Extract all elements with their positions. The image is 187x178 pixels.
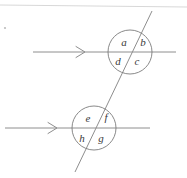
angle-label-b: b: [140, 36, 146, 48]
geometry-figure-canvas: a b c d e f g h: [0, 0, 187, 178]
bullet-mark: [4, 27, 6, 29]
angle-label-a: a: [121, 36, 127, 48]
top-rule-line: [0, 5, 187, 7]
angle-label-d: d: [115, 55, 121, 67]
angle-label-f: f: [104, 111, 109, 123]
angle-label-e: e: [86, 112, 91, 124]
angle-label-g: g: [98, 132, 104, 144]
angle-label-h: h: [79, 132, 85, 144]
angle-label-c: c: [135, 55, 140, 67]
geometry-figure: a b c d e f g h: [0, 0, 187, 178]
